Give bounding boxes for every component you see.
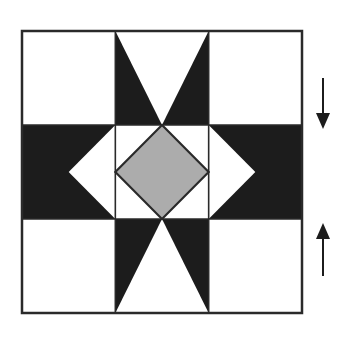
quilt-block-diagram [0,0,345,343]
corner-square-top-left [22,31,115,125]
corner-square-bottom-right [209,219,302,313]
corner-square-bottom-left [22,219,115,313]
quilt-block-figure: Ohio Star Ohio Star quilt block diagram [0,0,345,343]
ohio-star-block [22,31,302,313]
corner-square-top-right [209,31,302,125]
